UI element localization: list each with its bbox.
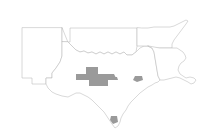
us-south-central-map (0, 0, 209, 134)
highlight-permian-spur-east (108, 77, 118, 80)
highlight-permian-core-south (89, 80, 108, 86)
map-container (0, 0, 209, 134)
highlight-permian-core-north (86, 67, 98, 74)
